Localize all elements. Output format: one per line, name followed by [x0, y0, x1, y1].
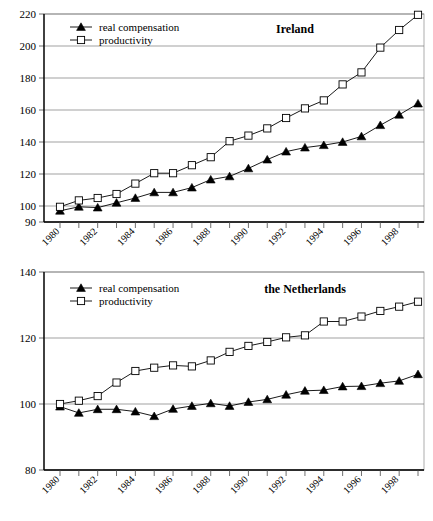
data-point-productivity — [245, 132, 252, 139]
data-point-real-compensation — [244, 164, 253, 172]
data-point-productivity — [320, 97, 327, 104]
data-point-real-compensation — [131, 194, 140, 202]
data-point-productivity — [414, 298, 421, 305]
data-point-productivity — [169, 170, 176, 177]
ireland-plot-svg: 9010012014016018020022019801982198419861… — [0, 0, 433, 260]
legend-label: productivity — [99, 295, 153, 307]
data-point-productivity — [283, 334, 290, 341]
data-point-productivity — [264, 338, 271, 345]
data-point-real-compensation — [414, 99, 423, 107]
y-axis-label: 120 — [20, 332, 37, 344]
y-axis-label: 160 — [20, 104, 37, 116]
data-point-real-compensation — [263, 155, 272, 163]
data-point-productivity — [396, 303, 403, 310]
x-axis-label: 1988 — [190, 226, 212, 248]
data-point-productivity — [377, 44, 384, 51]
data-point-real-compensation — [225, 172, 234, 180]
data-point-productivity — [56, 400, 63, 407]
data-point-productivity — [396, 26, 403, 33]
legend-label: productivity — [99, 34, 153, 46]
y-axis-label: 100 — [20, 200, 37, 212]
legend-marker-productivity — [77, 297, 84, 304]
data-point-productivity — [226, 348, 233, 355]
x-axis-label: 1992 — [266, 474, 288, 496]
data-point-productivity — [339, 318, 346, 325]
y-axis-label: 140 — [20, 136, 37, 148]
data-point-productivity — [264, 125, 271, 132]
x-axis-label: 1994 — [303, 474, 325, 496]
x-axis-label: 1980 — [39, 226, 61, 248]
y-axis-label: 220 — [20, 8, 37, 20]
x-axis-label: 1994 — [303, 226, 325, 248]
data-point-real-compensation — [187, 183, 196, 191]
chart-title: Ireland — [276, 22, 314, 36]
x-axis-label: 1990 — [228, 474, 250, 496]
data-point-productivity — [94, 392, 101, 399]
data-point-productivity — [207, 154, 214, 161]
data-point-productivity — [75, 397, 82, 404]
y-axis-label: 80 — [25, 464, 37, 476]
data-point-productivity — [151, 364, 158, 371]
legend-label: real compensation — [99, 21, 180, 33]
data-point-productivity — [207, 357, 214, 364]
x-axis-label: 1980 — [39, 474, 61, 496]
data-point-productivity — [283, 114, 290, 121]
data-point-productivity — [94, 194, 101, 201]
x-axis-label: 1986 — [153, 226, 175, 248]
data-point-productivity — [188, 162, 195, 169]
x-axis-label: 1990 — [228, 226, 250, 248]
data-point-real-compensation — [395, 377, 404, 385]
x-axis-label: 1992 — [266, 226, 288, 248]
y-axis-label: 90 — [25, 216, 37, 228]
x-axis-label: 1984 — [115, 226, 137, 248]
data-point-productivity — [301, 105, 308, 112]
y-axis-label: 100 — [20, 398, 37, 410]
data-point-productivity — [113, 379, 120, 386]
data-point-productivity — [358, 69, 365, 76]
x-axis-label: 1982 — [77, 226, 99, 248]
x-axis-label: 1998 — [379, 474, 401, 496]
data-point-productivity — [358, 313, 365, 320]
data-point-productivity — [226, 138, 233, 145]
data-point-real-compensation — [376, 121, 385, 129]
x-axis-label: 1986 — [153, 474, 175, 496]
data-point-productivity — [151, 170, 158, 177]
data-point-productivity — [245, 342, 252, 349]
x-axis-label: 1982 — [77, 474, 99, 496]
data-point-productivity — [75, 197, 82, 204]
y-axis-label: 180 — [20, 72, 37, 84]
chart-netherlands: 8010012014019801982198419861988199019921… — [0, 260, 433, 521]
x-axis-label: 1996 — [341, 474, 363, 496]
data-point-productivity — [320, 318, 327, 325]
data-point-productivity — [56, 203, 63, 210]
data-point-productivity — [301, 332, 308, 339]
data-point-real-compensation — [395, 111, 404, 119]
x-axis-label: 1996 — [341, 226, 363, 248]
data-point-productivity — [113, 190, 120, 197]
x-axis-label: 1984 — [115, 474, 137, 496]
data-point-real-compensation — [206, 399, 215, 407]
data-point-productivity — [132, 180, 139, 187]
legend-label: real compensation — [99, 282, 180, 294]
y-axis-label: 140 — [20, 266, 37, 278]
x-axis-label: 1998 — [379, 226, 401, 248]
data-point-productivity — [132, 367, 139, 374]
chart-title: the Netherlands — [264, 282, 346, 296]
data-point-productivity — [377, 307, 384, 314]
data-point-real-compensation — [357, 132, 366, 140]
x-axis-label: 1988 — [190, 474, 212, 496]
data-point-productivity — [169, 362, 176, 369]
data-point-productivity — [414, 11, 421, 18]
data-point-real-compensation — [414, 370, 423, 378]
data-point-real-compensation — [338, 138, 347, 146]
legend-marker-productivity — [77, 36, 84, 43]
chart-ireland: 9010012014016018020022019801982198419861… — [0, 0, 433, 260]
data-point-productivity — [188, 363, 195, 370]
data-point-productivity — [339, 81, 346, 88]
y-axis-label: 200 — [20, 40, 37, 52]
netherlands-plot-svg: 8010012014019801982198419861988199019921… — [0, 260, 433, 521]
y-axis-label: 120 — [20, 168, 37, 180]
